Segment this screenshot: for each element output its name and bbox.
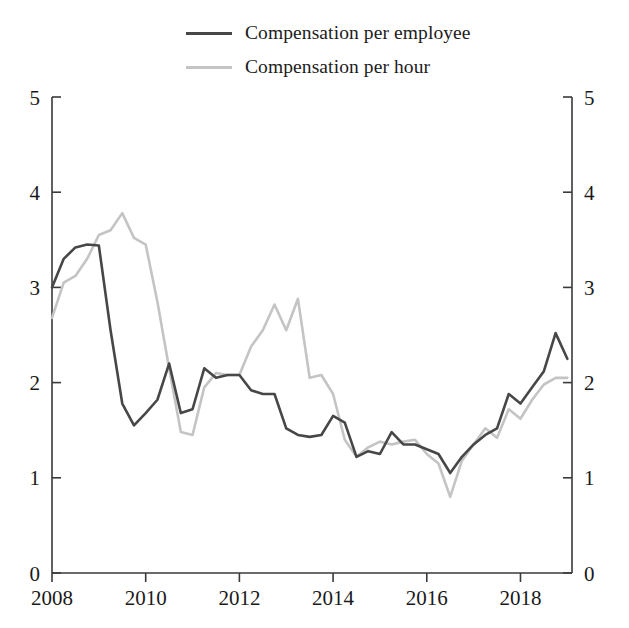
x-axis-tick-label: 2012 bbox=[218, 586, 260, 610]
x-axis-tick-label: 2016 bbox=[406, 586, 448, 610]
series-line-compensation-per-employee bbox=[52, 245, 567, 473]
axis-layer bbox=[52, 97, 572, 573]
x-axis-tick-label: 2008 bbox=[31, 586, 73, 610]
x-axis-tick-label: 2014 bbox=[312, 586, 355, 610]
y-axis-tick-label-right: 0 bbox=[584, 562, 595, 586]
x-axis-tick-label: 2018 bbox=[499, 586, 541, 610]
y-axis-tick-label-left: 4 bbox=[30, 181, 41, 205]
chart-plot-area: 001122334455200820102012201420162018 bbox=[0, 0, 629, 628]
y-axis-tick-label-right: 2 bbox=[584, 371, 595, 395]
y-axis-tick-label-left: 0 bbox=[30, 562, 41, 586]
series-line-compensation-per-hour bbox=[52, 213, 567, 497]
tick-layer bbox=[52, 97, 572, 582]
y-axis-tick-label-right: 5 bbox=[584, 86, 595, 110]
x-axis-tick-label: 2010 bbox=[125, 586, 167, 610]
y-axis-tick-label-right: 3 bbox=[584, 276, 595, 300]
y-axis-tick-label-left: 1 bbox=[30, 466, 41, 490]
y-axis-tick-label-right: 4 bbox=[584, 181, 595, 205]
y-axis-tick-label-right: 1 bbox=[584, 466, 595, 490]
y-axis-tick-label-left: 5 bbox=[30, 86, 41, 110]
chart-figure: Compensation per employee Compensation p… bbox=[0, 0, 629, 628]
y-axis-tick-label-left: 2 bbox=[30, 371, 41, 395]
series-layer bbox=[52, 213, 567, 497]
y-axis-tick-label-left: 3 bbox=[30, 276, 41, 300]
